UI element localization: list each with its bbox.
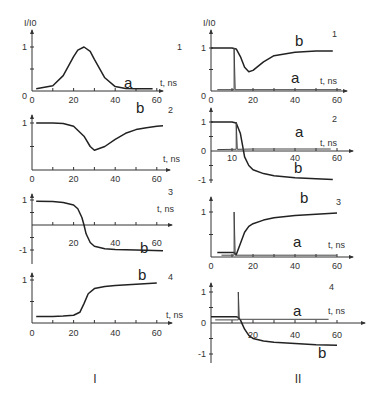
y-tick-label: 1 [22, 275, 27, 285]
x-tick-label: 40 [110, 328, 120, 338]
x-tick-label: 60 [332, 261, 342, 271]
x-axis-label: t, ns [320, 138, 338, 148]
x-axis-arrow-icon [361, 321, 366, 325]
series-label-b: b [138, 266, 146, 283]
x-tick-label: 40 [110, 95, 120, 105]
x-axis-arrow-icon [168, 223, 173, 227]
x-tick-label: 0 [29, 328, 34, 338]
x-axis-label: t, ns [163, 154, 181, 164]
series-b-line [36, 123, 163, 150]
x-tick-label: 40 [290, 261, 300, 271]
series-label-a: a [124, 74, 133, 91]
y-tick-label: -1 [198, 175, 206, 185]
y-axis-label: I/I0 [203, 18, 216, 28]
x-tick-label: 40 [110, 174, 120, 184]
panel-number: 3 [168, 187, 173, 197]
panel-number: 2 [332, 114, 337, 124]
x-axis-label: t, ns [157, 204, 175, 214]
y-tick-label: 0 [201, 318, 206, 328]
y-tick-label: 0 [22, 91, 27, 101]
x-tick-label: 0 [29, 174, 34, 184]
y-tick-label: 1 [201, 117, 206, 127]
y-tick-label: 1 [22, 42, 27, 52]
x-tick-label: 0 [208, 261, 213, 271]
series-b-line [211, 48, 333, 72]
x-axis-arrow-icon [159, 89, 164, 93]
x-tick-label: 20 [69, 328, 79, 338]
y-tick-label: 1 [22, 195, 27, 205]
series-a-line [36, 47, 152, 89]
x-tick-label: 40 [290, 95, 300, 105]
x-tick-label: 60 [152, 95, 162, 105]
x-tick-label: 20 [69, 174, 79, 184]
y-axis-arrow-icon [209, 29, 213, 34]
y-tick-label: 0 [201, 146, 206, 156]
series-b-line [36, 283, 157, 317]
y-tick-label: 1 [201, 207, 206, 217]
y-tick-label: 1 [201, 287, 206, 297]
x-axis-label: t, ns [328, 306, 346, 316]
series-label-b: b [294, 159, 302, 176]
x-tick-label: 40 [110, 238, 120, 248]
series-label-a: a [291, 69, 300, 86]
x-axis-arrow-icon [166, 168, 171, 172]
y-axis-arrow-icon [30, 29, 34, 34]
x-tick-label: 0 [29, 95, 34, 105]
panel-number: 2 [168, 105, 173, 115]
series-label-b: b [140, 239, 148, 256]
column-label-II: II [295, 372, 302, 386]
x-tick-label: 60 [332, 330, 342, 340]
series-a-line [217, 122, 330, 150]
y-axis-arrow-icon [209, 107, 213, 112]
y-axis-arrow-icon [30, 114, 34, 119]
y-tick-label: 1 [22, 118, 27, 128]
panel-number: 1 [177, 42, 182, 52]
y-tick-label: 0 [201, 91, 206, 101]
x-axis-arrow-icon [343, 89, 348, 93]
figure-canvas: 020406001t, nsI/I01a02040601t, ns2b20406… [0, 0, 381, 400]
x-tick-label: 60 [332, 153, 342, 163]
x-axis-label: t, ns [320, 76, 338, 86]
x-tick-label: 20 [69, 95, 79, 105]
x-axis-label: t, ns [328, 240, 346, 250]
column-label-I: I [93, 372, 96, 386]
panel-number: 3 [336, 197, 341, 207]
series-a-line [215, 292, 328, 320]
y-tick-label: -1 [198, 349, 206, 359]
y-tick-label: 1 [201, 43, 206, 53]
x-axis-label: t, ns [160, 78, 178, 88]
series-label-b: b [295, 32, 303, 49]
y-tick-label: -1 [19, 245, 27, 255]
y-axis-arrow-icon [30, 272, 34, 277]
x-axis-arrow-icon [349, 255, 354, 259]
series-label-b: b [300, 189, 308, 206]
y-axis-arrow-icon [30, 193, 34, 198]
x-tick-label: 0 [208, 95, 213, 105]
y-axis-label: I/I0 [24, 18, 37, 28]
x-tick-label: 60 [152, 238, 162, 248]
y-axis-arrow-icon [209, 196, 213, 201]
y-axis-arrow-icon [209, 282, 213, 287]
x-tick-label: 60 [152, 174, 162, 184]
x-tick-label: 20 [248, 261, 258, 271]
series-label-b: b [136, 99, 144, 116]
x-tick-label: 20 [69, 238, 79, 248]
x-tick-label: 20 [248, 95, 258, 105]
series-label-a: a [293, 233, 302, 250]
panel-number: 1 [332, 29, 337, 39]
panel-number: 4 [329, 282, 334, 292]
x-tick-label: 10 [227, 153, 237, 163]
x-axis-label: t, ns [166, 310, 184, 320]
x-tick-label: 40 [290, 330, 300, 340]
x-tick-label: 60 [152, 328, 162, 338]
x-axis-arrow-icon [349, 149, 354, 153]
series-label-b: b [318, 344, 326, 361]
x-tick-label: 60 [332, 95, 342, 105]
panel-number: 4 [168, 272, 173, 282]
x-axis-arrow-icon [168, 321, 173, 325]
series-label-a: a [293, 302, 302, 319]
series-label-a: a [295, 123, 304, 140]
